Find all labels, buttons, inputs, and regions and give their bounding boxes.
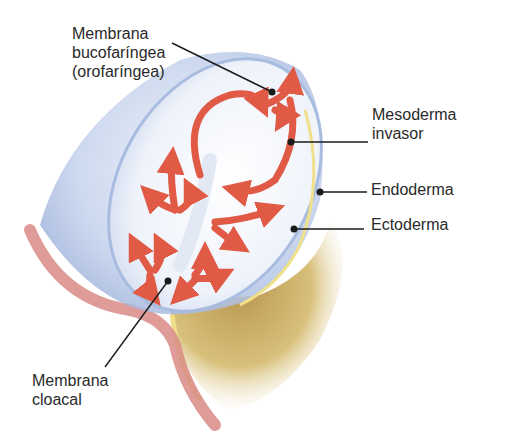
label-oropharyngeal-membrane: Membrana bucofaríngea (orofaríngea) <box>72 24 165 81</box>
label-line: (orofaríngea) <box>72 62 165 81</box>
label-line: Membrana <box>72 24 165 43</box>
label-line: Membrana <box>32 371 108 390</box>
label-line: invasor <box>372 124 456 143</box>
label-line: Mesoderma <box>372 105 456 124</box>
label-line: bucofaríngea <box>72 43 165 62</box>
label-endoderm: Endoderma <box>371 180 454 199</box>
label-invading-mesoderm: Mesoderma invasor <box>372 105 456 143</box>
diagram-stage: Membrana bucofaríngea (orofaríngea) Meso… <box>0 0 505 448</box>
label-ectoderm: Ectoderma <box>371 215 448 234</box>
label-line: Endoderma <box>371 180 454 199</box>
label-line: cloacal <box>32 390 108 409</box>
label-line: Ectoderma <box>371 215 448 234</box>
label-cloacal-membrane: Membrana cloacal <box>32 371 108 409</box>
